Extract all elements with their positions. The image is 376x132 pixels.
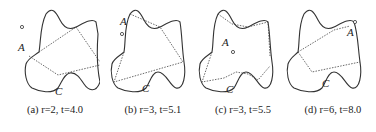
label-agent: A	[17, 41, 25, 53]
caption-d: (d) r=6, t=8.0	[286, 104, 376, 115]
start-point	[231, 50, 234, 53]
caption-c: (c) r=3, t=5.5	[196, 104, 290, 115]
visibility-edge	[114, 52, 183, 82]
panel-a: A C (a) r=2, t=4.0	[0, 0, 94, 132]
caption-b: (b) r=3, t=5.1	[106, 104, 200, 115]
start-point	[353, 20, 356, 23]
visibility-edge	[298, 26, 350, 52]
label-agent: A	[346, 26, 354, 38]
panel-b: A C (b) r=3, t=5.1	[94, 0, 188, 132]
start-point	[20, 25, 23, 28]
visibility-edge	[298, 52, 360, 72]
visibility-edge	[202, 52, 270, 82]
region-outline	[25, 10, 100, 92]
label-corner: C	[226, 83, 234, 95]
diagram-c: A C	[188, 0, 288, 100]
diagram-b: A C	[94, 0, 194, 100]
label-agent: A	[119, 15, 127, 27]
visibility-edge	[29, 56, 100, 75]
label-agent: A	[221, 36, 229, 48]
caption-a: (a) r=2, t=4.0	[8, 104, 102, 115]
panel-c: A C (c) r=3, t=5.5	[188, 0, 282, 132]
panel-d: A C (d) r=6, t=8.0	[282, 0, 376, 132]
label-corner: C	[55, 85, 63, 97]
visibility-edge	[39, 27, 100, 62]
diagram-d: A C	[282, 0, 376, 100]
label-corner: C	[142, 82, 150, 94]
label-corner: C	[322, 77, 330, 89]
visibility-edge	[130, 14, 183, 62]
region-outline	[199, 10, 272, 92]
start-point	[120, 32, 123, 35]
diagram-a: A C	[0, 0, 100, 100]
